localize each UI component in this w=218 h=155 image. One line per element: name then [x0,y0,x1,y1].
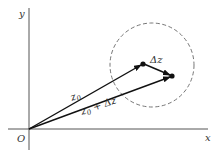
x-axis-label: x [205,132,211,143]
label-dz: Δz [149,54,163,65]
point-z0 [140,61,145,66]
complex-plane-diagram: y x O z0 z0 + Δz Δz [0,0,218,155]
vector-dz [144,64,170,75]
point-z0-plus-dz [169,73,174,78]
vector-z0 [29,65,141,129]
origin-label: O [17,133,25,144]
y-axis-label: y [18,8,25,19]
